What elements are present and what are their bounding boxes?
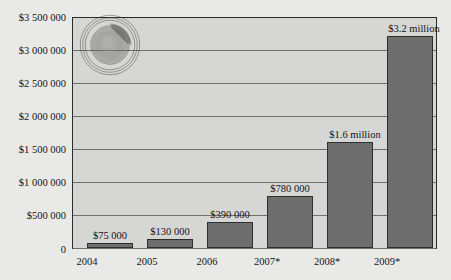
bar-chart: $3 500 000 $3 000 000 $2 500 000 $2 000 … bbox=[0, 0, 451, 280]
y-tick-label: $1 000 000 bbox=[0, 178, 66, 189]
y-tick-label: $1 500 000 bbox=[0, 145, 66, 156]
bar-2004 bbox=[87, 243, 133, 248]
gridline bbox=[73, 248, 436, 249]
gridline bbox=[73, 50, 436, 51]
y-tick-label: $2 000 000 bbox=[0, 112, 66, 123]
bar-2008 bbox=[327, 142, 373, 248]
bar-value-label-2006: $390 000 bbox=[192, 210, 268, 221]
y-tick-label: 0 bbox=[0, 245, 66, 256]
bar-value-label-2007: $780 000 bbox=[252, 184, 328, 195]
gridline bbox=[73, 149, 436, 150]
y-tick-label: $3 500 000 bbox=[0, 13, 66, 24]
bar-2005 bbox=[147, 239, 193, 248]
bar-2006 bbox=[207, 222, 253, 248]
gridline bbox=[73, 83, 436, 84]
y-tick-label: $3 000 000 bbox=[0, 46, 66, 57]
y-tick-label: $2 500 000 bbox=[0, 79, 66, 90]
circular-seal-watermark-icon bbox=[79, 14, 141, 76]
bar-2007 bbox=[267, 196, 313, 248]
bar-value-label-2005: $130 000 bbox=[132, 227, 208, 238]
bar-value-label-2009: $3.2 million bbox=[365, 24, 451, 35]
bar-2009 bbox=[387, 36, 433, 248]
gridline bbox=[73, 182, 436, 183]
y-tick-label: $500 000 bbox=[0, 211, 66, 222]
bar-value-label-2008: $1.6 million bbox=[308, 130, 402, 141]
gridline bbox=[73, 116, 436, 117]
plot-area: $75 000 $130 000 $390 000 $780 000 $1.6 … bbox=[72, 17, 437, 249]
x-tick-label-2009: 2009* bbox=[351, 257, 423, 268]
